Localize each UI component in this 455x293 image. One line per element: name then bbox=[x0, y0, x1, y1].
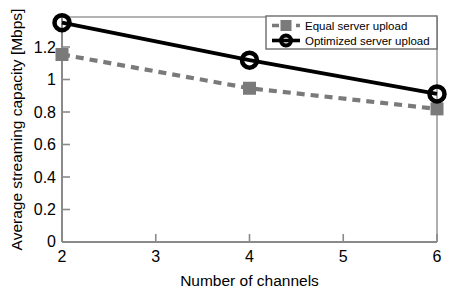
y-axis-label: Average streaming capacity [Mbps] bbox=[8, 9, 25, 251]
x-tick-label-5: 5 bbox=[339, 248, 348, 265]
streaming-capacity-line-chart: 0 0.2 0.4 0.6 0.8 1 1.2 2 3 4 5 6 Number… bbox=[0, 0, 455, 293]
chart-legend: Equal server upload Optimized server upl… bbox=[266, 16, 437, 49]
x-tick-label-3: 3 bbox=[151, 248, 160, 265]
x-tick-label-2: 2 bbox=[58, 248, 67, 265]
x-tick-label-4: 4 bbox=[245, 248, 254, 265]
y-tick-label-1-2: 1.2 bbox=[34, 39, 56, 56]
y-tick-label-0-8: 0.8 bbox=[34, 104, 56, 121]
y-tick-label-1: 1 bbox=[47, 71, 56, 88]
y-tick-label-0-2: 0.2 bbox=[34, 201, 56, 218]
y-tick-label-0-6: 0.6 bbox=[34, 136, 56, 153]
equal-server-upload-marker bbox=[56, 48, 69, 61]
chart-figure: 0 0.2 0.4 0.6 0.8 1 1.2 2 3 4 5 6 Number… bbox=[0, 0, 455, 293]
legend-square-marker bbox=[281, 20, 292, 31]
x-axis-label: Number of channels bbox=[180, 272, 319, 289]
legend-label-equal-server-upload: Equal server upload bbox=[305, 20, 407, 32]
x-tick-label-6: 6 bbox=[433, 248, 442, 265]
legend-label-optimized-server-upload: Optimized server upload bbox=[305, 35, 430, 47]
y-tick-label-0-4: 0.4 bbox=[34, 169, 56, 186]
equal-server-upload-marker bbox=[431, 102, 444, 115]
equal-server-upload-marker bbox=[243, 82, 256, 95]
y-tick-label-0: 0 bbox=[47, 233, 56, 250]
